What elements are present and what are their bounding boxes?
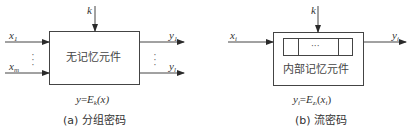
block-cipher-diagram: [5, 6, 184, 85]
output-sub: l: [174, 66, 176, 74]
register-ellipsis: ···: [311, 42, 320, 51]
input-label-xm: xm: [9, 61, 19, 74]
output-label-yi: yi: [392, 30, 399, 43]
input-label-x1: x1: [9, 30, 17, 43]
formula-func: E: [306, 93, 313, 105]
input-sub: m: [14, 66, 19, 74]
output-ellipsis-vertical: ···: [153, 52, 157, 67]
caption-a: (a) 分组密码: [63, 115, 126, 126]
caption-b: (b) 流密码: [295, 115, 347, 126]
input-sub: i: [235, 35, 237, 43]
key-label-a: k: [87, 5, 92, 16]
key-label-b: k: [311, 5, 316, 16]
formula-arg: (x): [97, 93, 109, 105]
formula-func: E: [87, 93, 94, 105]
formula-paren-close: ): [327, 93, 331, 105]
stream-cipher-formula: yi=Ezi(xi): [293, 94, 331, 107]
internal-memory-element-label: 内部记忆元件: [283, 64, 349, 75]
input-sub: 1: [14, 35, 18, 43]
output-label-y1: y1: [169, 30, 177, 43]
output-sub: i: [397, 35, 399, 43]
input-label-xi: xi: [230, 30, 237, 43]
diagram-canvas: [0, 0, 413, 135]
memoryless-element-label: 无记忆元件: [66, 52, 121, 63]
output-label-yl: yl: [169, 61, 176, 74]
output-sub: 1: [174, 35, 178, 43]
input-ellipsis-vertical: ···: [31, 52, 35, 67]
block-cipher-formula: y=Ek(x): [76, 94, 109, 107]
